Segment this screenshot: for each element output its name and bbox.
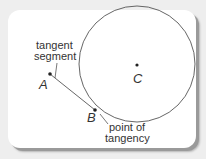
tangent-diagram: C A B tangent segment point of tangency [0, 0, 206, 159]
tangent-segment [50, 74, 95, 110]
label-b: B [87, 110, 96, 125]
tangency-label-line2: tangency [105, 132, 150, 144]
tangent-segment-pointer [55, 63, 57, 78]
point-a [48, 72, 52, 76]
tangent-segment-label-line2: segment [34, 50, 76, 62]
tangency-pointer [100, 114, 108, 124]
label-a: A [38, 77, 48, 92]
label-c: C [133, 71, 143, 86]
center-point-c [135, 63, 138, 66]
